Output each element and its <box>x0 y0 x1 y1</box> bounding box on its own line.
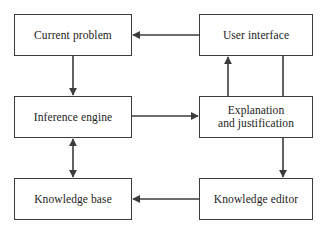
node-inference-engine[interactable]: Inference engine <box>14 96 132 138</box>
node-knowledge-editor-label: Knowledge editor <box>211 193 301 206</box>
node-knowledge-base[interactable]: Knowledge base <box>14 178 132 220</box>
diagram-canvas: Current problem User interface Inference… <box>0 0 327 234</box>
node-knowledge-editor[interactable]: Knowledge editor <box>199 178 313 220</box>
node-explanation-and-justification-label: Explanation and justification <box>215 104 297 130</box>
node-user-interface[interactable]: User interface <box>199 14 313 56</box>
node-explanation-and-justification[interactable]: Explanation and justification <box>199 96 313 138</box>
node-user-interface-label: User interface <box>220 29 292 42</box>
node-current-problem[interactable]: Current problem <box>14 14 132 56</box>
node-current-problem-label: Current problem <box>31 29 115 42</box>
node-inference-engine-label: Inference engine <box>31 111 116 124</box>
node-knowledge-base-label: Knowledge base <box>31 193 115 206</box>
